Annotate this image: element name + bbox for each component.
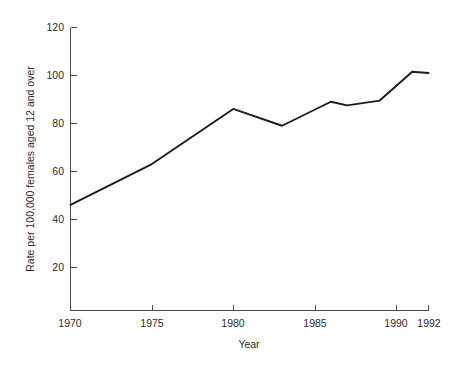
y-tick-label-40: 40 — [52, 213, 64, 225]
x-tick-label-1970: 1970 — [58, 317, 82, 329]
y-tick-label-80: 80 — [52, 117, 64, 129]
x-tick-label-1975: 1975 — [140, 317, 164, 329]
y-tick-label-20: 20 — [52, 261, 64, 273]
y-tick-label-120: 120 — [46, 21, 64, 33]
x-tick-label-1985: 1985 — [303, 317, 327, 329]
line-chart: 20 40 60 80 100 120 1970 1975 1980 1985 … — [0, 0, 450, 369]
chart-container: 20 40 60 80 100 120 1970 1975 1980 1985 … — [0, 0, 450, 369]
data-series-line — [71, 72, 429, 205]
y-tick-label-60: 60 — [52, 165, 64, 177]
x-tick-label-1990: 1990 — [384, 317, 408, 329]
y-tick-label-100: 100 — [46, 69, 64, 81]
x-tick-label-1992: 1992 — [417, 317, 441, 329]
x-axis-title: Year — [238, 338, 260, 350]
x-tick-label-1980: 1980 — [221, 317, 245, 329]
y-axis-title: Rate per 100,000 females aged 12 and ove… — [24, 66, 36, 272]
